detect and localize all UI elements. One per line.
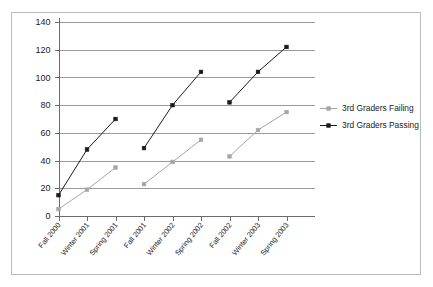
data-point-marker [256,128,260,132]
series-line [230,47,287,102]
y-tick-label: 80 [40,100,50,110]
series-line [230,112,287,156]
data-point-marker [114,117,118,121]
y-tick-label: 0 [45,211,50,221]
data-point-marker [285,110,289,114]
series-failing [57,110,289,211]
chart-figure: 020406080100120140Fall 2000Winter 2001Sp… [0,0,433,287]
x-tick-label: Spring 2001 [87,221,119,258]
data-point-marker [57,207,61,211]
legend-label: 3rd Graders Failing [342,103,414,113]
data-point-marker [57,193,61,197]
data-point-marker [228,155,232,159]
data-point-marker [256,70,260,74]
y-tick-label: 140 [35,17,50,27]
series-line [59,119,116,195]
y-tick-label: 60 [40,128,50,138]
x-tick-label: Fall 2001 [122,221,148,250]
y-tick-label: 100 [35,73,50,83]
data-point-marker [171,160,175,164]
data-point-marker [285,45,289,49]
x-tick-label: Spring 2003 [258,221,290,258]
x-tick-label: Fall 2002 [207,221,233,250]
x-tick-label: Spring 2002 [173,221,205,258]
series-passing [57,45,289,197]
legend-item-failing: 3rd Graders Failing [320,103,414,113]
data-point-marker [114,166,118,170]
data-point-marker [199,70,203,74]
legend-label: 3rd Graders Passing [342,120,419,130]
data-point-marker [142,146,146,150]
x-tick-label: Fall 2000 [36,221,62,250]
y-tick-label: 20 [40,183,50,193]
y-tick-label: 120 [35,45,50,55]
data-point-marker [199,138,203,142]
data-point-marker [85,188,89,192]
legend-item-passing: 3rd Graders Passing [320,120,419,130]
line-chart: 020406080100120140Fall 2000Winter 2001Sp… [0,0,433,287]
data-point-marker [228,101,232,105]
data-point-marker [171,103,175,107]
legend-marker [327,124,331,128]
legend-marker [327,107,331,111]
data-point-marker [142,182,146,186]
data-point-marker [85,148,89,152]
plot-area: 020406080100120140Fall 2000Winter 2001Sp… [0,0,433,287]
series-line [144,72,201,148]
y-tick-label: 40 [40,156,50,166]
